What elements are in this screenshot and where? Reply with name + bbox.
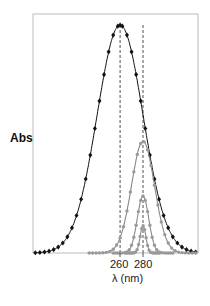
black-broad-marker xyxy=(139,98,143,103)
black-broad-marker xyxy=(52,247,56,252)
gray-large-marker xyxy=(87,251,90,254)
gray-large-marker xyxy=(184,251,187,254)
gray-small-marker xyxy=(158,251,161,254)
gray-large-marker xyxy=(101,251,104,254)
gray-large-marker xyxy=(194,251,197,254)
black-broad-marker xyxy=(130,49,134,54)
gray-large-marker xyxy=(91,251,94,254)
gray-large-marker xyxy=(142,140,145,143)
black-broad-marker xyxy=(84,176,88,181)
black-broad-marker xyxy=(162,213,166,218)
black-broad-marker xyxy=(56,244,60,249)
gray-large-marker xyxy=(129,190,132,193)
x-axis-label: λ (nm) xyxy=(112,272,143,284)
black-broad-marker xyxy=(93,126,97,131)
gray-large-marker xyxy=(108,250,111,253)
black-broad-marker xyxy=(79,197,83,202)
gray-large-marker xyxy=(149,164,152,167)
gray-large-marker xyxy=(94,251,97,254)
gray-large-marker xyxy=(163,233,166,236)
black-broad-marker xyxy=(107,49,111,54)
gray-small-marker xyxy=(144,236,147,239)
black-broad-marker xyxy=(143,126,147,131)
gray-large-marker xyxy=(156,203,159,206)
black-broad-marker xyxy=(33,250,37,255)
black-broad-marker xyxy=(42,249,46,254)
x-tick-label-260: 260 xyxy=(110,258,128,270)
gray-large-marker xyxy=(146,148,149,151)
gray-large-marker xyxy=(177,250,180,253)
gray-medium-marker xyxy=(139,199,142,202)
gray-large-marker xyxy=(167,241,170,244)
black-broad-marker xyxy=(111,32,115,37)
gray-large-marker xyxy=(187,251,190,254)
gray-small-marker xyxy=(135,248,138,251)
gray-large-marker xyxy=(122,225,125,228)
gray-medium-marker xyxy=(144,199,147,202)
gray-medium-marker xyxy=(148,224,151,227)
gray-large-marker xyxy=(191,251,194,254)
black-broad-marker xyxy=(102,72,106,77)
x-tick-label-280: 280 xyxy=(134,258,152,270)
gray-large-marker xyxy=(136,153,139,156)
black-broad-marker xyxy=(134,72,138,77)
gray-large-marker xyxy=(180,251,183,254)
black-broad-marker xyxy=(70,225,74,230)
gray-medium-marker xyxy=(134,224,137,227)
gray-medium-marker xyxy=(128,248,131,251)
gray-small-marker xyxy=(141,224,144,227)
black-broad-marker xyxy=(88,152,92,157)
gray-medium-marker xyxy=(141,194,144,197)
black-broad-marker xyxy=(166,225,170,230)
black-broad-marker xyxy=(180,244,184,249)
gray-medium-marker xyxy=(171,251,174,254)
black-broad-marker xyxy=(125,32,129,37)
gray-medium-marker xyxy=(130,244,133,247)
gray-large-marker xyxy=(98,251,101,254)
gray-medium-marker xyxy=(150,235,153,238)
y-axis-label: Abs xyxy=(10,131,33,145)
gray-large-marker xyxy=(125,209,128,212)
gray-small-marker xyxy=(146,244,149,247)
black-broad-marker xyxy=(97,98,101,103)
gray-large-marker xyxy=(132,170,135,173)
reference-lines xyxy=(120,25,143,253)
black-broad-marker xyxy=(75,213,79,218)
gray-small-marker xyxy=(143,228,146,231)
gray-large-marker xyxy=(139,142,142,145)
gray-large-marker xyxy=(105,251,108,254)
gray-large-marker xyxy=(153,184,156,187)
gray-medium-marker xyxy=(153,244,156,247)
gray-large-marker xyxy=(160,220,163,223)
gray-medium-marker xyxy=(132,235,135,238)
gray-large-marker xyxy=(115,243,118,246)
gray-medium-marker xyxy=(137,210,140,213)
gray-large-marker xyxy=(112,247,115,250)
plot-frame xyxy=(33,14,198,253)
black-broad-curve xyxy=(35,25,195,253)
gray-small-marker xyxy=(140,227,143,230)
gray-small-marker xyxy=(138,235,141,238)
gray-small-marker xyxy=(137,243,140,246)
black-broad-marker xyxy=(38,250,42,255)
series-group xyxy=(33,22,197,255)
gray-large-marker xyxy=(118,236,121,239)
gray-medium-marker xyxy=(146,210,149,213)
absorbance-chart xyxy=(0,0,210,306)
gray-large-marker xyxy=(170,246,173,249)
